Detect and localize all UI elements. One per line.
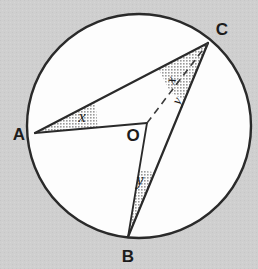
point-label-b: B [122, 247, 134, 266]
angle-label-a: x [77, 108, 85, 125]
angle-label-b: y [134, 171, 144, 189]
geometry-figure: A B C O x x y y [0, 0, 258, 269]
point-label-c: C [216, 20, 228, 39]
point-label-o: O [126, 126, 139, 145]
circle-geometry-diagram: A B C O x x y y [0, 0, 258, 269]
point-label-a: A [13, 125, 25, 144]
